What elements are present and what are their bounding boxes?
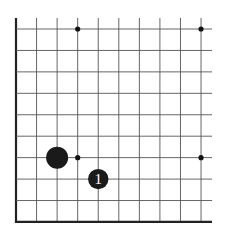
go-board-diagram: 1 [0, 0, 228, 238]
board-grid [15, 18, 212, 222]
star-point-icon [75, 26, 80, 31]
numbered-stone-1: 1 [88, 169, 108, 189]
star-point-icon [198, 26, 203, 31]
move-number-label: 1 [94, 171, 102, 187]
stone-icon [46, 147, 68, 169]
star-point-icon [75, 155, 80, 160]
star-point-icon [198, 155, 203, 160]
black-stone [46, 147, 68, 169]
